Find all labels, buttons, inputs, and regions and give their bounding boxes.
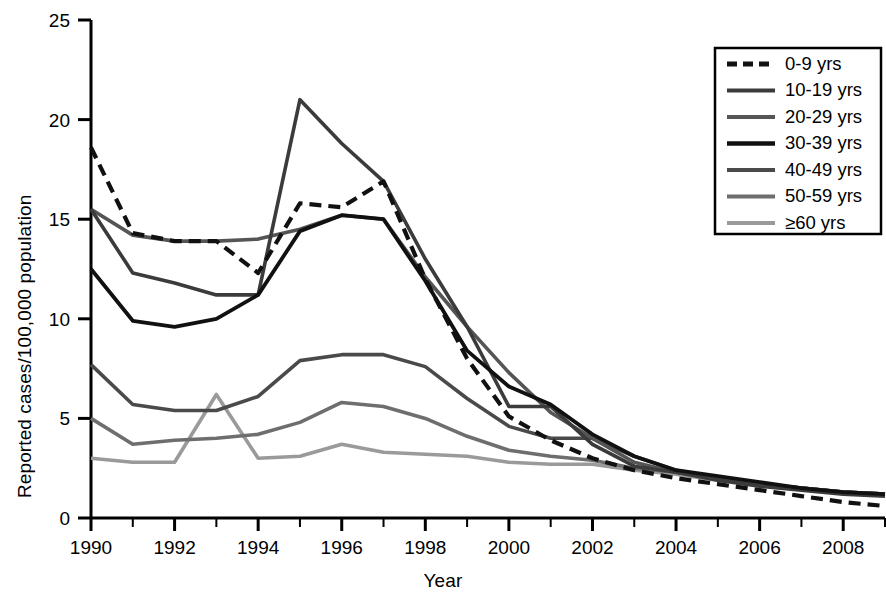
x-axis-title: Year [0,570,886,592]
y-tick-label: 20 [49,110,70,131]
legend-label: 0-9 yrs [785,53,842,74]
y-tick-label: 5 [59,408,70,429]
series-line [91,402,885,494]
series-line [91,215,885,494]
x-tick-label: 1996 [321,537,363,558]
x-tick-label: 2004 [655,537,698,558]
series-line [91,209,885,494]
chart-figure: 0510152025 19901992199419961998200020022… [0,0,886,601]
x-tick-label: 2002 [571,537,613,558]
x-axis-ticks: 1990199219941996199820002002200420062008 [70,518,885,558]
y-tick-label: 0 [59,508,70,529]
x-tick-label: 2000 [488,537,530,558]
x-tick-label: 1990 [70,537,112,558]
x-tick-label: 1994 [237,537,280,558]
y-axis-title: Reported cases/100,000 population [14,195,36,498]
y-axis-ticks: 0510152025 [49,10,91,529]
y-tick-label: 25 [49,10,70,31]
chart-legend: 0-9 yrs10-19 yrs20-29 yrs30-39 yrs40-49 … [715,48,881,234]
x-tick-label: 1998 [404,537,446,558]
legend-label: 20-29 yrs [785,106,862,127]
line-chart-svg: 0510152025 19901992199419961998200020022… [0,0,886,601]
x-tick-label: 2006 [738,537,780,558]
legend-label: 30-39 yrs [785,132,862,153]
legend-label: 10-19 yrs [785,79,862,100]
legend-label: ≥60 yrs [785,212,846,233]
legend-label: 40-49 yrs [785,159,862,180]
x-tick-label: 1992 [153,537,195,558]
x-tick-label: 2008 [822,537,864,558]
legend-label: 50-59 yrs [785,185,862,206]
y-tick-label: 10 [49,309,70,330]
y-tick-label: 15 [49,209,70,230]
series-line [91,355,885,494]
